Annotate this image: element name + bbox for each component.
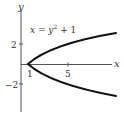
equation-rhs: + 1 — [57, 25, 76, 35]
y-tick-label-2: 2 — [11, 40, 17, 50]
equation-lhs: x = y — [30, 25, 54, 35]
x-axis-label: x — [114, 58, 120, 69]
x-tick-label-1: 1 — [27, 69, 33, 79]
parabola-chart: y x x = y2 + 1 2 −2 1 5 — [0, 0, 124, 115]
y-axis-label: y — [17, 1, 24, 12]
x-tick-label-5: 5 — [65, 69, 71, 79]
y-tick-label-neg2: −2 — [5, 80, 18, 90]
equation-label: x = y2 + 1 — [30, 23, 76, 35]
